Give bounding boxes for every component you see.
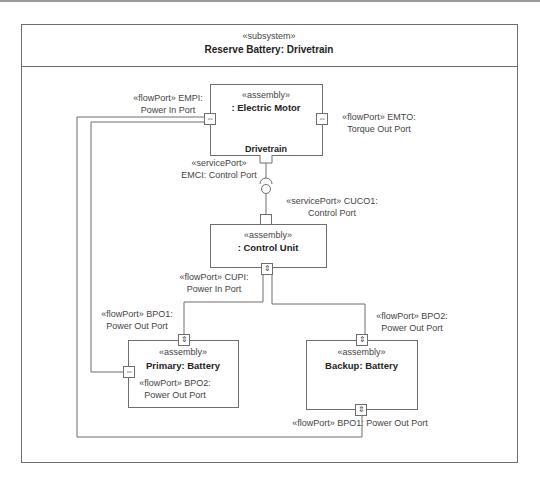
primary-battery-stereotype: «assembly» bbox=[128, 346, 238, 358]
port-label-cupi-line1: «flowPort» CUPI: bbox=[172, 271, 256, 283]
port-label-primary-bpo2: «flowPort» BPO2: Power Out Port bbox=[134, 377, 216, 401]
backup-battery-stereotype: «assembly» bbox=[306, 346, 417, 358]
port-label-emci-line1: «servicePort» bbox=[176, 157, 262, 169]
bidirectional-arrow-icon: ⇔ bbox=[316, 113, 328, 125]
port-label-cupi: «flowPort» CUPI: Power In Port bbox=[172, 271, 256, 295]
port-label-primary-bpo2-line1: «flowPort» BPO2: bbox=[134, 377, 216, 389]
port-label-backup-bpo2: «flowPort» BPO2: Power Out Port bbox=[371, 310, 453, 334]
connector-cupi-backup-bpo2[interactable] bbox=[272, 275, 365, 334]
vertical-bidirectional-arrow-icon: ⇕ bbox=[178, 334, 190, 346]
frame-title: Reserve Battery: Drivetrain bbox=[21, 44, 517, 56]
port-label-backup-bpo2-line1: «flowPort» BPO2: bbox=[371, 310, 453, 322]
port-label-primary-bpo1: «flowPort» BPO1: Power Out Port bbox=[97, 308, 177, 332]
port-label-backup-bpo2-line2: Power Out Port bbox=[371, 322, 453, 334]
port-label-cuco1: «servicePort» CUCO1: Control Port bbox=[280, 195, 384, 219]
port-cuco1[interactable] bbox=[261, 215, 272, 225]
vertical-bidirectional-arrow-icon: ⇕ bbox=[261, 263, 273, 275]
port-label-cuco1-line1: «servicePort» CUCO1: bbox=[280, 195, 384, 207]
port-label-primary-bpo2-line2: Power Out Port bbox=[134, 389, 216, 401]
port-label-primary-bpo1-line2: Power Out Port bbox=[97, 320, 177, 332]
port-label-emci: «servicePort» EMCI: Control Port bbox=[176, 157, 262, 181]
port-label-emto: «flowPort» EMTO: Torque Out Port bbox=[334, 111, 424, 135]
backup-battery-name: Backup: Battery bbox=[306, 360, 417, 372]
frame-stereotype: «subsystem» bbox=[21, 30, 517, 42]
electric-motor-name: : Electric Motor bbox=[210, 102, 322, 114]
port-label-primary-bpo1-line1: «flowPort» BPO1: bbox=[97, 308, 177, 320]
port-label-cupi-line2: Power In Port bbox=[172, 283, 256, 295]
vertical-bidirectional-arrow-icon: ⇕ bbox=[355, 404, 367, 416]
port-label-emto-line2: Torque Out Port bbox=[334, 123, 424, 135]
port-label-empi-line2: Power In Port bbox=[130, 104, 206, 116]
vertical-bidirectional-arrow-icon: ⇕ bbox=[356, 334, 368, 346]
port-label-empi-line1: «flowPort» EMPI: bbox=[130, 92, 206, 104]
provided-interface-ball-icon bbox=[262, 185, 271, 194]
port-label-empi: «flowPort» EMPI: Power In Port bbox=[130, 92, 206, 116]
primary-battery-name: Primary: Battery bbox=[128, 360, 238, 372]
port-label-emci-line2: EMCI: Control Port bbox=[176, 169, 262, 181]
control-unit-stereotype: «assembly» bbox=[210, 229, 326, 241]
port-label-emto-line1: «flowPort» EMTO: bbox=[334, 111, 424, 123]
electric-motor-compartment: Drivetrain bbox=[210, 143, 322, 155]
electric-motor-stereotype: «assembly» bbox=[210, 89, 322, 101]
control-unit-name: : Control Unit bbox=[210, 242, 326, 254]
port-label-backup-bpo1: «flowPort» BPO1: Power Out Port bbox=[290, 417, 430, 429]
port-label-cuco1-line2: Control Port bbox=[280, 207, 384, 219]
